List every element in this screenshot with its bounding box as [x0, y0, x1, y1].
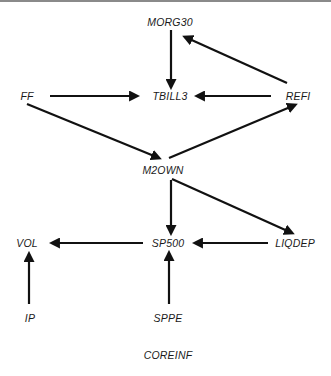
node-vol: VOL	[16, 237, 38, 249]
node-morg30: MORG30	[147, 16, 193, 28]
node-ip: IP	[25, 312, 35, 324]
edge-ff-to-m2own	[27, 104, 159, 158]
node-sppe: SPPE	[154, 312, 183, 324]
node-sp500: SP500	[152, 237, 185, 249]
node-coreinf: COREINF	[144, 349, 193, 361]
node-m2own: M2OWN	[142, 164, 183, 176]
node-liqdep: LIQDEP	[275, 237, 315, 249]
node-refi: REFI	[286, 90, 311, 102]
node-tbill3: TBILL3	[152, 90, 187, 102]
edge-m2own-to-liqdep	[172, 179, 292, 233]
edge-refi-to-morg30	[185, 37, 287, 83]
node-ff: FF	[20, 90, 33, 102]
edge-m2own-to-refi	[169, 105, 295, 158]
